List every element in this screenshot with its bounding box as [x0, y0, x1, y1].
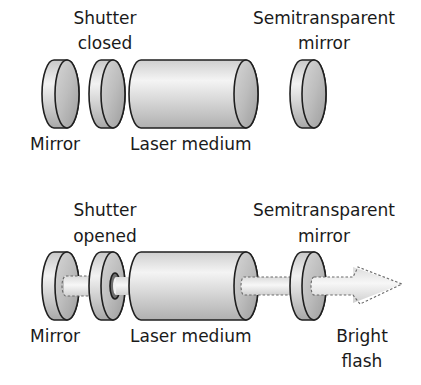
- panel-shutter-opened: Shutter opened Semitransparent mirror Mi…: [30, 200, 402, 371]
- mirror-label: Mirror: [30, 134, 80, 154]
- laser-medium-cylinder: [129, 60, 258, 128]
- mirror-label: Mirror: [30, 326, 80, 346]
- semitransparent-mirror-disc: [290, 60, 326, 128]
- bright-flash-label: Bright: [336, 326, 388, 346]
- shutter-state-label: closed: [78, 33, 133, 53]
- semitransparent-mirror-label: mirror: [298, 226, 350, 246]
- flash-label: flash: [342, 351, 383, 371]
- shutter-label: Shutter: [73, 200, 136, 220]
- shutter-disc-closed: [89, 60, 125, 128]
- laser-medium-cylinder: [129, 252, 258, 320]
- panel-shutter-closed: Shutter closed Semitransparent mirror Mi…: [30, 8, 395, 154]
- semitransparent-mirror-label: mirror: [298, 33, 350, 53]
- laser-medium-label: Laser medium: [130, 326, 251, 346]
- shutter-state-label: opened: [73, 226, 137, 246]
- laser-medium-label: Laser medium: [130, 134, 251, 154]
- laser-diagram: Shutter closed Semitransparent mirror Mi…: [0, 0, 421, 385]
- semitransparent-label: Semitransparent: [253, 200, 395, 220]
- semitransparent-label: Semitransparent: [253, 8, 395, 28]
- mirror-disc: [42, 60, 79, 128]
- shutter-label: Shutter: [73, 8, 136, 28]
